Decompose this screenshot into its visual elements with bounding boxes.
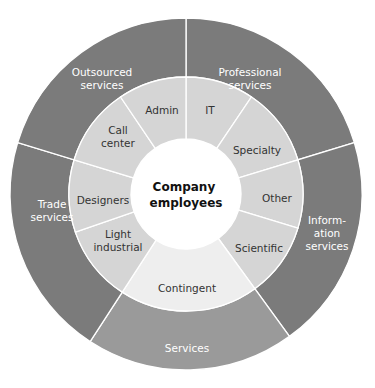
center-node: Company employees (131, 139, 241, 249)
middle-label-line: Other (262, 192, 292, 204)
middle-label-it: IT (205, 104, 215, 116)
middle-label-specialty: Specialty (233, 144, 281, 156)
outer-label-line: Inform- (308, 214, 346, 226)
outer-label-line: Outsourced (72, 66, 133, 78)
middle-label-line: Designers (77, 194, 130, 206)
outer-label-line: services (30, 211, 73, 223)
middle-label-admin: Admin (145, 104, 178, 116)
center-circle (131, 139, 241, 249)
outer-label-line: services (305, 240, 348, 252)
middle-label-other: Other (262, 192, 292, 204)
middle-label-contingent: Contingent (158, 282, 216, 294)
outer-label-services: Services (165, 342, 209, 354)
outer-label-outsourced-services: Outsourcedservices (72, 66, 133, 91)
middle-label-line: Contingent (158, 282, 216, 294)
middle-label-line: center (101, 137, 135, 149)
outer-label-line: Trade (37, 198, 67, 210)
outer-label-line: Professional (218, 66, 281, 78)
outer-label-line: services (80, 79, 123, 91)
middle-label-line: Light (105, 228, 131, 240)
middle-label-line: Scientific (235, 242, 283, 254)
center-label-line-2: employees (150, 196, 223, 210)
sunburst-diagram: Company employees ProfessionalservicesIn… (0, 0, 375, 388)
outer-label-line: services (228, 79, 271, 91)
middle-label-line: Call (108, 124, 128, 136)
outer-label-line: Services (165, 342, 209, 354)
middle-label-line: IT (205, 104, 215, 116)
middle-label-line: Admin (145, 104, 178, 116)
middle-label-designers: Designers (77, 194, 130, 206)
middle-label-line: industrial (93, 241, 142, 253)
center-label-line-1: Company (153, 180, 216, 194)
middle-label-line: Specialty (233, 144, 281, 156)
outer-label-line: ation (314, 227, 341, 239)
middle-label-scientific: Scientific (235, 242, 283, 254)
